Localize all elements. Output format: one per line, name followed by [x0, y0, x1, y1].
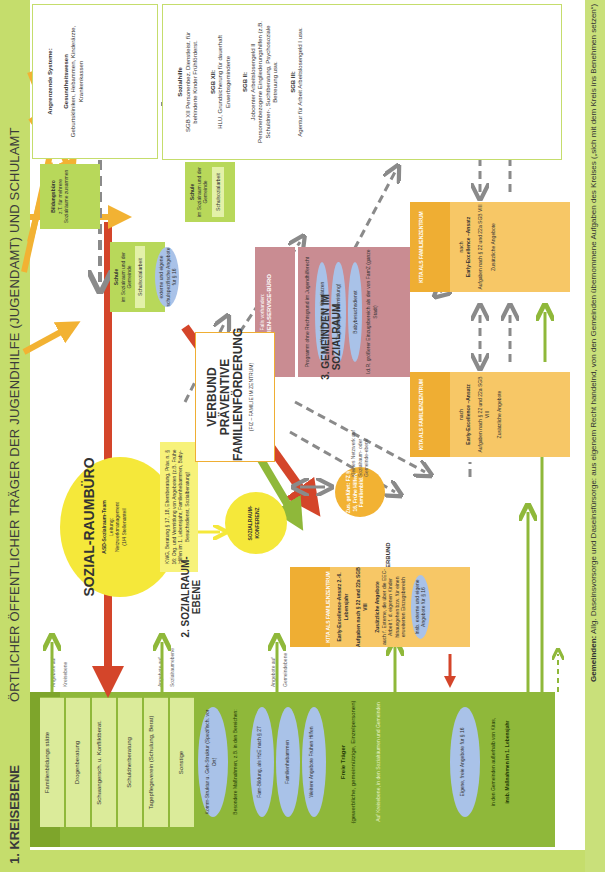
diagram-canvas: 1. KREISEBENE ÖRTLICHER ÖFFENTLICHER TRÄ…	[0, 0, 605, 872]
kita-main-ellipse: Insb. externe und eigene Angebote für § …	[411, 575, 430, 639]
footer-bold: Gemeinden:	[589, 636, 598, 682]
verbund-title: VERBUND PRÄVENTIVE FAMILIENFÖRDERUNG	[206, 333, 245, 461]
bildungsbuero-box: Bildungsbüro z.T. für mehrere Sozialräum…	[40, 164, 100, 229]
schule-gemeinde-box: Schule im Sozialraum und der Gemeinde Sc…	[185, 162, 235, 222]
angrenzende-sozial-box: Sozialhilfe SGB XII Personenbez. Dienstl…	[162, 4, 562, 160]
sozialhilfe-title: Sozialhilfe	[177, 5, 185, 159]
footer-body: Allg. Daseinsvorsorge und Daseinsfürsorg…	[589, 4, 598, 634]
konferenz-sun: SOZIALRAUM-KONFERENZ	[225, 492, 287, 554]
schule-ellipse: externe und eigene schulspezifische Ange…	[155, 247, 179, 307]
schule-gemeinde-inner: Schulsozialarbeit	[212, 167, 225, 217]
sozialraumbuero-title: SOZIAL-RAUMBÜRO	[82, 457, 97, 597]
footer-text: Gemeinden: Allg. Daseinsvorsorge und Das…	[589, 4, 598, 682]
kleines-netzwerk: Kleines Netzwerk auf Sozialraum- oder Ge…	[350, 417, 370, 477]
kita-small-1-aufgaben: Aufgaben nach § 22 und 22a SGB VIII	[477, 372, 490, 457]
kita-small-1-roof-label: KITA ALS FAMILIENZENTRUM	[418, 372, 425, 457]
sgb2-text: Jobcenter Arbeitslosengeld II Personenbe…	[250, 5, 280, 159]
kita-small-2-eec: Early-Excellence –Ansatz	[465, 202, 472, 292]
sgb2-title: SGB II:	[242, 5, 250, 159]
kita-small-2-roof: KITA ALS FAMILIENZENTRUM	[410, 202, 450, 292]
kita-main-body: Early-Excellence-Ansatz 2.-6. Lebensjahr…	[330, 567, 470, 647]
fsb-program: Programm ohne Rechtsgrund im Jugendhilfe…	[304, 247, 311, 377]
verbund-subtitle: (FIZ – FAMILIE IM ZENTRUM)	[248, 333, 255, 461]
kita-main-zus-text: auch f. Externe, die über die EEC-Arbeit…	[381, 567, 407, 647]
sozialhilfe-text: SGB XII Personenbez. Dienstleist. für be…	[185, 5, 200, 159]
schule-gemeinde-text: im Sozialraum und der Gemeinde	[196, 162, 209, 222]
angrenzende-title: Angrenzende Systeme:	[47, 5, 55, 158]
kita-small-1-body: nach Early-Excellence –Ansatz Aufgaben n…	[450, 372, 570, 457]
familien-service-body: Programm ohne Rechtsgrund im Jugendhilfe…	[298, 247, 410, 377]
kita-small-1-roof: KITA ALS FAMILIENZENTRUM	[410, 372, 450, 457]
kita-main-eec: Early-Excellence-Ansatz 2.-6. Lebensjahr	[336, 567, 349, 647]
sgb12-text: HLU, Grundsicherung für dauerhaft Erwerb…	[217, 5, 232, 159]
bildungsbuero-text: z.T. für mehrere Sozialräume zusammen	[57, 164, 70, 229]
gesundheit-text: Geburtskliniken, Hebammen, Kinderärzte, …	[70, 5, 85, 158]
kita-small-2-zus: Zusätzliche Angebote	[490, 202, 497, 292]
kita-small-2-roof-label: KITA ALS FAMILIENZENTRUM	[418, 202, 425, 292]
sgb3-title: SGB III:	[290, 5, 298, 159]
fsb-footer: I.d.R. größerer Einzugsbereich als der v…	[365, 247, 378, 377]
sgb12-title: SGB XII:	[210, 5, 218, 159]
kita-small-2-body: nach Early-Excellence –Ansatz Aufgaben n…	[450, 202, 570, 292]
sozialraumbuero-anteil: (1/4 Stellenanteil	[121, 457, 128, 597]
schule-sozialraum-text: im Sozialraum und der Gemeinde	[120, 242, 133, 312]
gesundheit-title: Gesundheitswesen	[63, 5, 71, 158]
level2-label: 2. SOZIALRAUM-EBENE	[180, 552, 202, 642]
konferenz-label: SOZIALRAUM-KONFERENZ	[247, 492, 260, 554]
kita-small-2-aufgaben: Aufgaben nach § 22 und 22a SGB VIII	[477, 202, 484, 292]
angrenzende-gesundheit-box: Angrenzende Systeme: Gesundheitswesen Ge…	[32, 4, 158, 159]
schule-sozialraum-inner: Schulsozialarbeit	[135, 246, 146, 308]
kita-small-1-eec: Early-Excellence –Ansatz	[465, 372, 472, 457]
verbund-box: VERBUND PRÄVENTIVE FAMILIENFÖRDERUNG (FI…	[195, 332, 275, 462]
sgb3-text: Agentur für Arbeit Arbeitslosengeld I us…	[297, 5, 305, 159]
fsb-ellipse-baby: Babybesuchsdienst	[348, 262, 363, 362]
level3-label: 3. GEMEINDEN IM SOZIALRAUM	[320, 292, 342, 382]
kita-small-1-zus: Zusätzliche Angebote	[496, 372, 503, 457]
kita-main-aufgaben: Aufgaben nach § 22 und 22a SGB VIII	[355, 567, 368, 647]
